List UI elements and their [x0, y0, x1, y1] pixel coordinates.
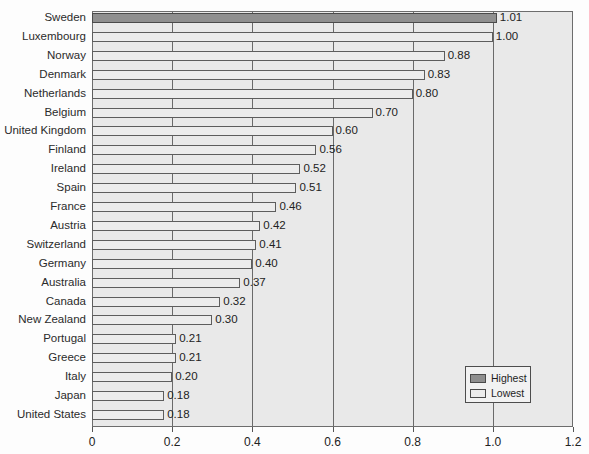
legend-item: Highest	[470, 371, 526, 385]
bar-value-label: 0.41	[259, 239, 281, 250]
bar-chart: SwedenLuxembourgNorwayDenmarkNetherlands…	[0, 0, 589, 454]
category-label: Belgium	[44, 107, 86, 118]
bar-value-label: 0.60	[336, 125, 358, 136]
category-label: New Zealand	[18, 314, 86, 325]
bar-value-label: 0.88	[448, 50, 470, 61]
x-tick	[252, 427, 253, 432]
category-label: Denmark	[39, 69, 86, 80]
bar-value-label: 0.51	[299, 182, 321, 193]
bar	[92, 334, 176, 344]
bar	[92, 126, 333, 136]
bar	[92, 183, 296, 193]
bar-value-label: 0.21	[179, 352, 201, 363]
bar-value-label: 0.56	[319, 144, 341, 155]
legend-item: Lowest	[470, 386, 526, 400]
bar	[92, 297, 220, 307]
bar	[92, 13, 497, 23]
x-tick	[413, 427, 414, 432]
x-tick	[573, 427, 574, 432]
bar	[92, 51, 445, 61]
category-label: United Kingdom	[4, 125, 86, 136]
bar	[92, 164, 300, 174]
x-tick-label: 0.4	[244, 435, 261, 449]
x-tick	[92, 427, 93, 432]
bar-value-label: 0.46	[279, 201, 301, 212]
bar-value-label: 0.42	[263, 220, 285, 231]
category-label: Greece	[48, 352, 86, 363]
bars-layer: 1.011.000.880.830.800.700.600.560.520.51…	[92, 11, 573, 427]
bar-value-label: 0.83	[428, 69, 450, 80]
x-tick	[172, 427, 173, 432]
legend: HighestLowest	[465, 366, 531, 403]
category-label: Italy	[65, 371, 86, 382]
bar-value-label: 1.00	[496, 31, 518, 42]
bar	[92, 353, 176, 363]
bar	[92, 89, 413, 99]
bar-value-label: 0.40	[255, 258, 277, 269]
bar-value-label: 0.37	[243, 277, 265, 288]
bar-value-label: 1.01	[500, 12, 522, 23]
bar	[92, 32, 493, 42]
bar	[92, 108, 373, 118]
bar	[92, 315, 212, 325]
bar-value-label: 0.80	[416, 88, 438, 99]
category-label: United States	[17, 409, 86, 420]
x-tick	[493, 427, 494, 432]
bar-value-label: 0.30	[215, 314, 237, 325]
category-label: Sweden	[44, 12, 86, 23]
bar	[92, 221, 260, 231]
legend-label: Highest	[491, 373, 527, 383]
bar-value-label: 0.18	[167, 409, 189, 420]
x-tick-label: 1.2	[565, 435, 582, 449]
category-label: Norway	[47, 50, 86, 61]
bar	[92, 240, 256, 250]
bar	[92, 145, 316, 155]
bar	[92, 202, 276, 212]
category-label: Canada	[46, 296, 86, 307]
category-label: Netherlands	[24, 88, 86, 99]
x-tick-label: 0	[89, 435, 96, 449]
bar-value-label: 0.21	[179, 333, 201, 344]
x-tick	[333, 427, 334, 432]
bar	[92, 70, 425, 80]
legend-label: Lowest	[491, 388, 524, 398]
legend-swatch-lowest	[470, 389, 486, 398]
bar	[92, 259, 252, 269]
bar-value-label: 0.52	[303, 163, 325, 174]
x-tick-label: 0.2	[164, 435, 181, 449]
legend-swatch-highest	[470, 374, 486, 383]
y-axis-category-labels: SwedenLuxembourgNorwayDenmarkNetherlands…	[0, 11, 89, 427]
x-axis: 00.20.40.60.81.01.2	[92, 427, 574, 454]
category-label: Germany	[39, 258, 86, 269]
category-label: Portugal	[43, 333, 86, 344]
bar-value-label: 0.20	[175, 371, 197, 382]
bar	[92, 410, 164, 420]
category-label: Australia	[41, 277, 86, 288]
category-label: Japan	[55, 390, 86, 401]
category-label: Finland	[48, 144, 86, 155]
bar-value-label: 0.18	[167, 390, 189, 401]
x-tick-label: 0.8	[404, 435, 421, 449]
category-label: Switzerland	[27, 239, 86, 250]
bar	[92, 372, 172, 382]
x-tick-label: 1.0	[484, 435, 501, 449]
bar-value-label: 0.70	[376, 107, 398, 118]
bar	[92, 391, 164, 401]
category-label: Spain	[57, 182, 86, 193]
bar-value-label: 0.32	[223, 296, 245, 307]
category-label: Luxembourg	[22, 31, 86, 42]
x-tick-label: 0.6	[324, 435, 341, 449]
bar	[92, 278, 240, 288]
category-label: Ireland	[51, 163, 86, 174]
category-label: France	[50, 201, 86, 212]
category-label: Austria	[50, 220, 86, 231]
